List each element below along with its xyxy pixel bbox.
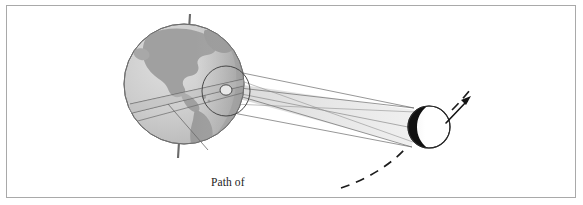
- moon-disk: [408, 105, 450, 149]
- label-path-of-annular-eclipse: Path of annular eclipse: [211, 150, 282, 205]
- moon-orbit-direction-arrow: [446, 96, 471, 123]
- label-line-1: Path of: [211, 176, 282, 189]
- figure-canvas: Path of annular eclipse: [0, 0, 583, 205]
- eclipse-diagram-artwork: [0, 0, 583, 205]
- annular-eclipse-spot: [220, 85, 232, 95]
